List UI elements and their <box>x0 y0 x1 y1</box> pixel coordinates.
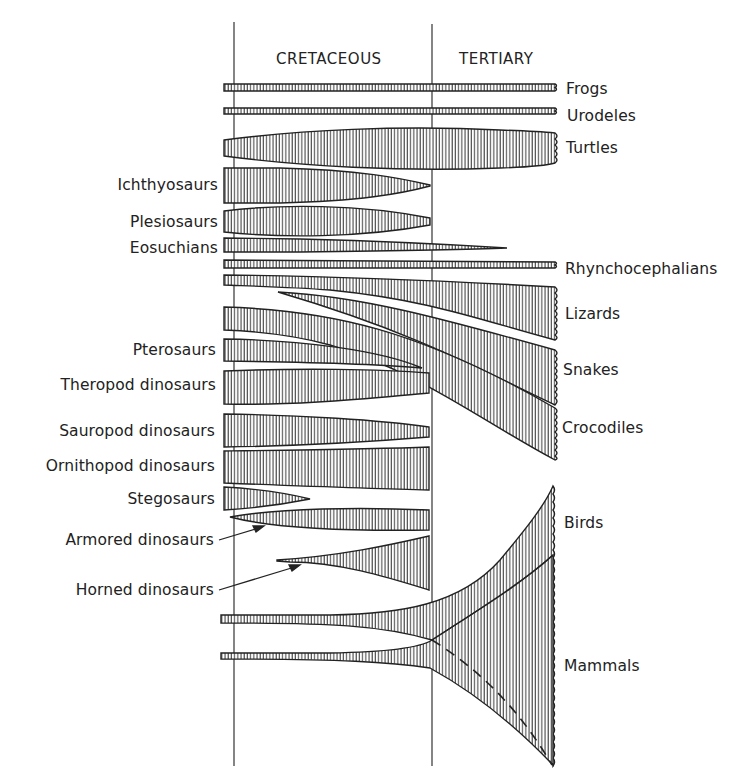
label-eosuchians: Eosuchians <box>130 239 218 257</box>
arrow-horned <box>219 566 298 590</box>
label-armored: Armored dinosaurs <box>65 531 214 549</box>
spindle-plesiosaurs <box>224 206 430 235</box>
label-rhynchocephalians: Rhynchocephalians <box>565 260 717 278</box>
spindle-ornithopod <box>224 447 429 490</box>
spindle-horned <box>277 536 429 590</box>
spindle-sauropod <box>224 414 429 447</box>
label-pterosaurs: Pterosaurs <box>133 341 216 359</box>
cretaceous-tertiary-diagram: CRETACEOUS TERTIARY Frogs Urodeles Turtl… <box>0 0 751 778</box>
label-plesiosaurs: Plesiosaurs <box>130 213 218 231</box>
spindle-stegosaurs <box>224 487 310 510</box>
label-snakes: Snakes <box>563 361 619 379</box>
label-ornithopod: Ornithopod dinosaurs <box>46 457 215 475</box>
label-theropod: Theropod dinosaurs <box>60 376 216 394</box>
label-mammals: Mammals <box>564 657 640 675</box>
label-frogs: Frogs <box>566 80 608 98</box>
label-stegosaurs: Stegosaurs <box>127 490 215 508</box>
period-cretaceous: CRETACEOUS <box>276 50 382 68</box>
spindle-theropod <box>224 369 429 404</box>
label-birds: Birds <box>564 514 603 532</box>
label-sauropod: Sauropod dinosaurs <box>59 422 215 440</box>
label-horned: Horned dinosaurs <box>76 581 214 599</box>
spindle-frogs <box>224 84 557 91</box>
period-tertiary: TERTIARY <box>459 50 533 68</box>
arrowhead-armored <box>253 526 264 532</box>
spindle-eosuchians <box>224 238 507 252</box>
spindle-urodeles <box>224 108 557 114</box>
label-crocodiles: Crocodiles <box>562 419 643 437</box>
label-ichthyosaurs: Ichthyosaurs <box>117 176 218 194</box>
label-lizards: Lizards <box>565 305 620 323</box>
spindle-ichthyosaurs <box>224 168 430 203</box>
label-urodeles: Urodeles <box>567 107 636 125</box>
spindle-rhynchocephalians <box>224 260 557 268</box>
label-turtles: Turtles <box>566 139 618 157</box>
spindle-turtles <box>224 128 557 169</box>
arrowhead-horned <box>289 565 300 571</box>
